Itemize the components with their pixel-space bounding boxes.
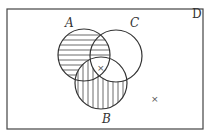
label-c: C xyxy=(130,16,139,30)
venn-diagram: A C B D × × xyxy=(0,0,208,135)
label-b: B xyxy=(101,112,111,126)
label-d: D xyxy=(192,7,202,21)
cross-mark-outside: × xyxy=(151,94,159,104)
label-a: A xyxy=(64,16,74,30)
cross-mark-center: × xyxy=(97,63,105,73)
universe-rectangle xyxy=(7,9,203,129)
circle-c xyxy=(90,30,142,82)
